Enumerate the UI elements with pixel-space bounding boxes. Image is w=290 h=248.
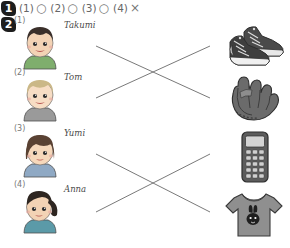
question-1-badge: 1 [1, 1, 16, 16]
item-sneakers [218, 18, 290, 70]
circle-correct-icon: ○ [36, 2, 46, 14]
avatar-tom [18, 73, 62, 123]
circle-correct-icon: ○ [99, 2, 109, 14]
mobile-phone-icon [218, 128, 290, 186]
avatar-anna [18, 185, 62, 235]
person-row-anna: (4) Anna [14, 180, 109, 235]
answer-number-4: (4) [113, 2, 128, 14]
connector-line-anna-phone [96, 154, 210, 212]
person-name-takumi: Takumi [64, 20, 95, 30]
person-name-yumi: Yumi [64, 128, 85, 138]
connector-line-takumi-glove [96, 46, 210, 98]
baseball-glove-icon [218, 72, 290, 124]
answer-item-1[interactable]: (1) ○ [19, 2, 46, 14]
answer-item-3[interactable]: (3) ○ [82, 2, 109, 14]
connector-line-yumi-tshirt [96, 154, 210, 212]
item-baseball-glove [218, 72, 290, 124]
answer-item-2[interactable]: (2) ○ [50, 2, 77, 14]
item-mobile-phone [218, 128, 290, 180]
answer-number-3: (3) [82, 2, 97, 14]
tshirt-icon [218, 186, 290, 242]
connector-line-tom-sneakers [96, 46, 210, 98]
answer-number-2: (2) [50, 2, 65, 14]
answer-item-4[interactable]: (4) × [113, 2, 140, 14]
person-name-anna: Anna [64, 184, 86, 194]
circle-correct-icon: ○ [67, 2, 77, 14]
person-row-takumi: (1) Takumi [14, 16, 109, 71]
answer-number-1: (1) [19, 2, 34, 14]
avatar-yumi [18, 129, 62, 179]
person-name-tom: Tom [64, 72, 82, 82]
person-row-tom: (2) Tom [14, 68, 109, 123]
question-1-answer-row: (1) ○ (2) ○ (3) ○ (4) × [19, 0, 140, 15]
matching-exercise: (1) Takumi (2) Tom [14, 16, 290, 248]
person-row-yumi: (3) Yumi [14, 124, 109, 179]
cross-incorrect-icon: × [130, 2, 140, 14]
sneakers-icon [218, 18, 290, 70]
avatar-takumi [18, 21, 62, 71]
item-tshirt [218, 186, 290, 238]
